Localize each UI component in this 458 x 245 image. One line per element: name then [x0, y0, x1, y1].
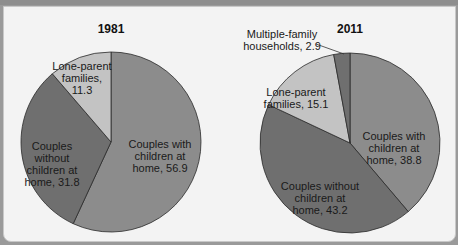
slice-label: Couples withchildren athome, 38.8: [363, 130, 426, 166]
slice-label: Coupleswithoutchildren athome, 31.8: [24, 140, 79, 188]
chart-title-2011: 2011: [337, 22, 363, 36]
slice-label: Couples withchildren athome, 56.9: [129, 138, 192, 174]
pie-charts: 1981 2011 Couples withchildren athome, 5…: [0, 0, 458, 245]
slice-label: Multiple-familyhouseholds, 2.9: [243, 28, 321, 52]
chart-title-1981: 1981: [98, 22, 125, 36]
slice-label: Lone-parentfamilies, 15.1: [264, 86, 329, 110]
